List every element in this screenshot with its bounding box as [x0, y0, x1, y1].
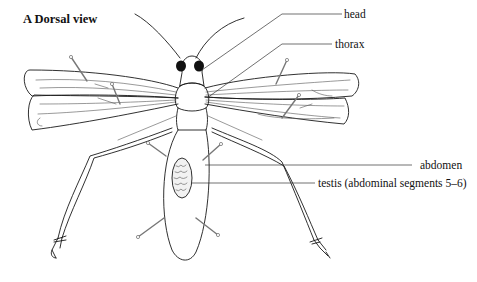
- leader-head: [202, 14, 342, 70]
- pin: [276, 58, 289, 84]
- pin: [69, 55, 87, 81]
- head-shape: [176, 56, 204, 86]
- pin: [136, 218, 164, 239]
- label-thorax: thorax: [335, 38, 364, 50]
- label-abdomen: abdomen: [420, 159, 462, 171]
- thorax-shape: [175, 83, 209, 130]
- pin: [203, 142, 223, 160]
- dorsal-view-diagram: A Dorsal view: [0, 0, 477, 282]
- insect-drawing: [0, 0, 477, 282]
- right-hind-leg: [212, 128, 330, 258]
- pin: [110, 82, 120, 104]
- right-hindwing: [205, 97, 349, 124]
- insect-pins: [69, 55, 300, 238]
- testis-shape: [172, 158, 192, 198]
- leg-bases: [118, 116, 262, 140]
- antennae: [135, 14, 244, 58]
- left-eye: [176, 61, 186, 72]
- pin: [196, 218, 220, 237]
- label-head: head: [344, 8, 366, 20]
- label-testis: testis (abdominal segments 5–6): [318, 177, 467, 189]
- right-forewing: [205, 73, 359, 99]
- pin: [146, 141, 166, 156]
- left-forewing: [24, 70, 178, 98]
